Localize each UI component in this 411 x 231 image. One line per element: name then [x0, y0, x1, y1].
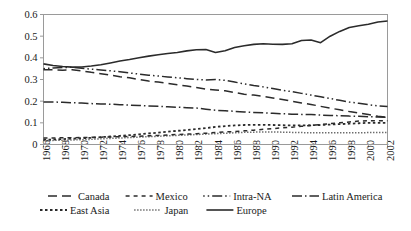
y-tick-label: 0.4 [24, 52, 38, 63]
legend-label-mexico: Mexico [156, 191, 188, 202]
x-tick-label: 1974 [117, 139, 128, 161]
y-tick-label: 0.1 [24, 117, 37, 128]
line-chart: 00.10.20.30.40.50.6 19661968197019721974… [0, 0, 411, 231]
x-tick-label: 1984 [213, 139, 224, 161]
chart-canvas: 00.10.20.30.40.50.6 19661968197019721974… [0, 0, 411, 231]
legend-label-latin-america: Latin America [322, 191, 383, 202]
legend-label-europe: Europe [236, 205, 267, 216]
x-tick-label: 1980 [174, 140, 185, 161]
x-tick-label: 1966 [41, 140, 52, 161]
legend-label-canada: Canada [78, 191, 110, 202]
x-tick-label: 1968 [60, 140, 71, 161]
x-tick-label: 1988 [251, 140, 262, 161]
x-tick-label: 1970 [79, 140, 90, 161]
x-tick-label: 1976 [136, 140, 147, 161]
x-tick-label: 1996 [327, 140, 338, 161]
y-tick-label: 0.2 [24, 96, 37, 107]
y-tick-label: 0.6 [24, 9, 37, 20]
x-tick-label: 1982 [193, 140, 204, 161]
legend-label-east-asia: East Asia [70, 205, 110, 216]
x-tick-label: 1998 [346, 140, 357, 161]
x-tick-label: 1994 [308, 139, 319, 161]
x-tick-label: 1992 [289, 140, 300, 161]
y-tick-label: 0 [32, 139, 37, 150]
legend-label-japan: Japan [164, 205, 189, 216]
x-tick-label: 2000 [365, 140, 376, 161]
x-tick-label: 1978 [155, 140, 166, 161]
x-tick-label: 1990 [270, 140, 281, 161]
y-tick-label: 0.5 [24, 31, 37, 42]
legend-label-intra-na: Intra-NA [233, 191, 272, 202]
y-tick-label: 0.3 [24, 74, 37, 85]
x-tick-label: 1986 [232, 140, 243, 161]
x-tick-label: 2002 [385, 140, 396, 161]
x-tick-label: 1972 [98, 140, 109, 161]
